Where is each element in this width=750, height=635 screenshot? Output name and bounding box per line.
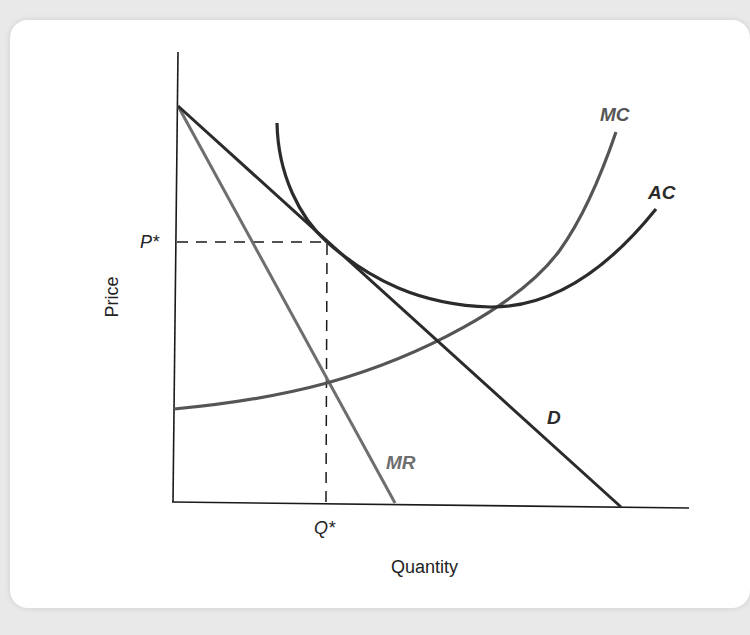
- demand-label: D: [547, 407, 561, 428]
- quantity-star-label: Q*: [314, 518, 336, 538]
- mr-curve: [178, 106, 395, 503]
- y-axis: [173, 52, 178, 502]
- ac-curve: [277, 123, 656, 307]
- mc-label: MC: [600, 104, 630, 125]
- ac-label: AC: [647, 182, 676, 203]
- price-star-label: P*: [140, 232, 160, 252]
- demand-curve: [178, 106, 621, 507]
- mc-curve: [174, 132, 616, 409]
- y-axis-title: Price: [102, 276, 122, 317]
- x-axis-title: Quantity: [391, 557, 458, 577]
- quantity-guide-dashed: [326, 244, 327, 502]
- mr-label: MR: [386, 452, 416, 473]
- x-axis: [172, 502, 689, 508]
